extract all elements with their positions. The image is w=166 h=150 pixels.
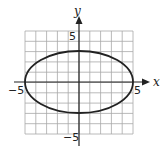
x-axis-label: x (153, 75, 160, 89)
y-axis-label: y (73, 4, 81, 18)
x-tick-neg5: −5 (8, 84, 24, 97)
x-axis-arrow-icon (142, 79, 150, 86)
ellipse-graph: x y −5 5 5 −5 (0, 0, 166, 150)
y-tick-5: 5 (69, 30, 76, 43)
x-tick-5: 5 (134, 84, 141, 97)
y-tick-neg5: −5 (63, 131, 79, 144)
